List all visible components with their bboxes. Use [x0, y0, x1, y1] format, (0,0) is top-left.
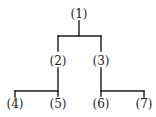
node-2: (2) — [50, 54, 67, 68]
tree-diagram: (1) (2) (3) (4) (5) (6) (7) — [0, 0, 156, 117]
node-6: (6) — [93, 97, 110, 111]
node-4: (4) — [7, 97, 24, 111]
node-1: (1) — [71, 7, 88, 21]
node-5: (5) — [50, 97, 67, 111]
node-3: (3) — [93, 54, 110, 68]
node-7: (7) — [136, 97, 153, 111]
